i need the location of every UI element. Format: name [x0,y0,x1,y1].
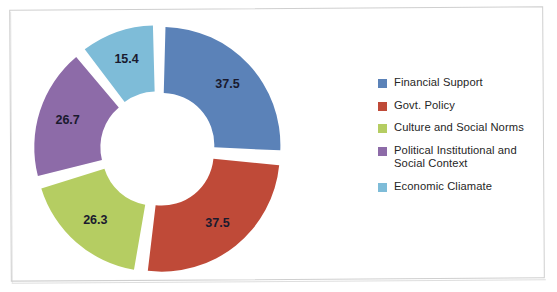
legend-item-govt-policy[interactable]: Govt. Policy [378,99,548,113]
legend-item-economic-climate[interactable]: Economic Cliamate [378,180,548,194]
chart-legend: Financial SupportGovt. PolicyCulture and… [378,76,548,202]
legend-swatch-icon [378,102,387,111]
legend-item-financial-support[interactable]: Financial Support [378,76,548,90]
legend-item-label: Political Institutional and Social Conte… [394,144,517,171]
slice-group [34,25,280,271]
doughnut-chart: 37.537.526.326.715.4 [18,12,303,282]
slice-value-label-financial-support: 37.5 [215,77,239,91]
legend-swatch-icon [378,79,387,88]
legend-item-political-institutional[interactable]: Political Institutional and Social Conte… [378,144,548,171]
legend-item-culture-and-social-norms[interactable]: Culture and Social Norms [378,121,548,135]
legend-item-label: Govt. Policy [394,99,455,113]
doughnut-svg: 37.537.526.326.715.4 [18,12,303,282]
chart-figure: 37.537.526.326.715.4 Financial SupportGo… [0,0,557,292]
legend-swatch-icon [378,183,387,192]
slice-value-label-economic-climate: 15.4 [114,52,138,66]
legend-item-label: Economic Cliamate [394,180,492,194]
legend-swatch-icon [378,147,387,156]
legend-item-label: Culture and Social Norms [394,121,524,135]
slice-value-label-culture-and-social-norms: 26.3 [83,213,107,227]
slice-value-label-political-institutional: 26.7 [55,113,79,127]
legend-swatch-icon [378,124,387,133]
legend-item-label: Financial Support [394,76,483,90]
slice-value-label-govt-policy: 37.5 [205,216,229,230]
